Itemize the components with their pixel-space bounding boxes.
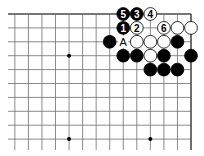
stone-circle xyxy=(130,49,143,62)
stone-circle xyxy=(158,63,171,76)
white-stone xyxy=(171,22,184,35)
white-stone xyxy=(158,35,171,48)
stone-circle xyxy=(171,63,184,76)
move-number: 5 xyxy=(120,9,126,20)
black-stone: 5 xyxy=(117,8,130,21)
black-stone xyxy=(158,49,171,62)
white-stone xyxy=(130,35,143,48)
stone-circle xyxy=(171,22,184,35)
go-board: 534126 A xyxy=(0,0,204,156)
stone-circle xyxy=(185,49,198,62)
stone-circle xyxy=(158,49,171,62)
stone-circle xyxy=(185,22,198,35)
black-stone xyxy=(144,63,157,76)
stone-circle xyxy=(144,63,157,76)
move-number: 6 xyxy=(161,23,167,34)
black-stone xyxy=(158,63,171,76)
stone-circle xyxy=(130,35,143,48)
white-stone: 4 xyxy=(144,8,157,21)
black-stone: 3 xyxy=(130,8,143,21)
stone-circle xyxy=(117,49,130,62)
black-stone xyxy=(171,63,184,76)
white-stone: 6 xyxy=(158,22,171,35)
star-point xyxy=(148,137,152,141)
black-stone xyxy=(185,49,198,62)
star-point xyxy=(67,137,71,141)
star-point xyxy=(67,54,71,58)
stone-circle xyxy=(171,35,184,48)
move-number: 1 xyxy=(120,23,126,34)
black-stone xyxy=(117,49,130,62)
stone-circle xyxy=(144,35,157,48)
move-number: 2 xyxy=(134,23,140,34)
black-stone: 1 xyxy=(117,22,130,35)
move-number: 3 xyxy=(134,9,140,20)
stone-circle xyxy=(144,49,157,62)
white-stone xyxy=(144,49,157,62)
white-stone xyxy=(185,22,198,35)
white-stone xyxy=(144,35,157,48)
black-stone xyxy=(103,35,116,48)
stone-circle xyxy=(158,35,171,48)
stone-circle xyxy=(103,35,116,48)
move-number: 4 xyxy=(148,9,154,20)
black-stone xyxy=(171,35,184,48)
black-stone xyxy=(130,49,143,62)
point-label-a: A xyxy=(120,36,128,48)
point-labels: A xyxy=(118,36,128,48)
white-stone: 2 xyxy=(130,22,143,35)
